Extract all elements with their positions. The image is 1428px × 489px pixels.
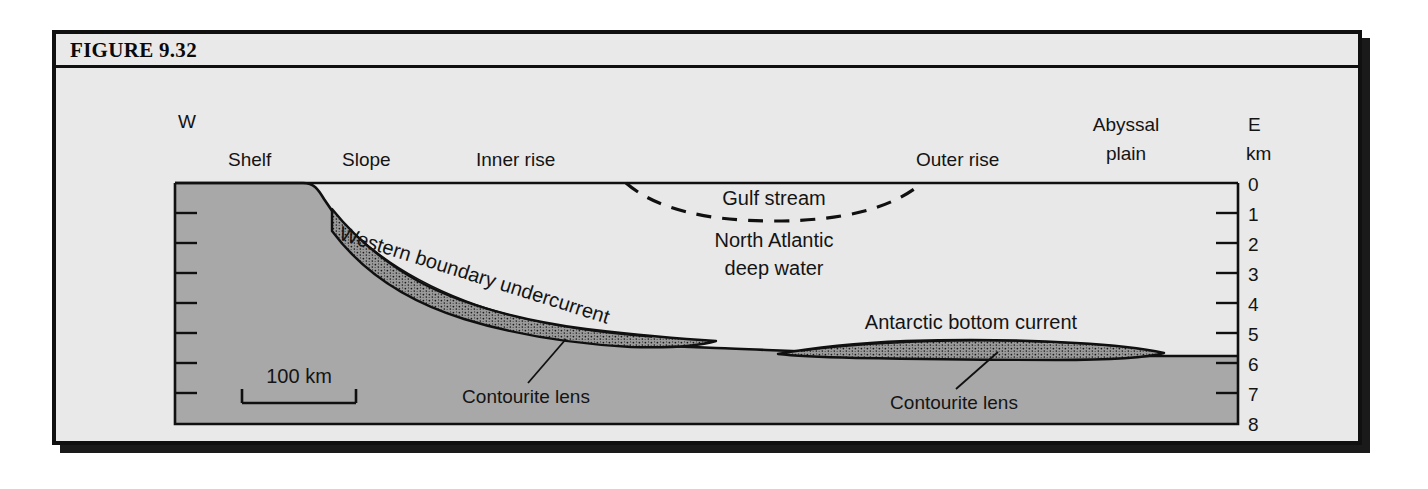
depth-tick-7: 7	[1248, 384, 1259, 405]
region-label-inner-rise: Inner rise	[476, 149, 555, 170]
depth-tick-3: 3	[1248, 264, 1259, 285]
compass-west-label: W	[178, 111, 196, 132]
depth-tick-1: 1	[1248, 204, 1259, 225]
region-label-abyssal-plain-line2: plain	[1106, 143, 1146, 164]
deposit-label-contourite-lens-east: Contourite lens	[890, 392, 1018, 413]
compass-east-label: E	[1248, 114, 1261, 135]
water-mass-label-gulf-stream: Gulf stream	[722, 187, 825, 209]
region-label-outer-rise: Outer rise	[916, 149, 999, 170]
figure-title: FIGURE 9.32	[70, 38, 197, 63]
figure-title-bar: FIGURE 9.32	[56, 34, 1358, 68]
current-label-antarctic-bottom-current: Antarctic bottom current	[865, 311, 1078, 333]
depth-tick-4: 4	[1248, 294, 1259, 315]
scale-bar-label: 100 km	[266, 365, 332, 387]
deposit-label-contourite-lens-west: Contourite lens	[462, 386, 590, 407]
figure-frame: FIGURE 9.32	[52, 30, 1362, 445]
depth-tick-2: 2	[1248, 234, 1259, 255]
depth-tick-8: 8	[1248, 414, 1259, 435]
depth-unit-label: km	[1246, 143, 1271, 164]
water-mass-label-nadw-line1: North Atlantic	[715, 229, 834, 251]
cross-section-diagram: 0 1 2 3 4 5 6 7 8 W E km Shelf Slope Inn…	[56, 71, 1358, 445]
water-mass-label-nadw-line2: deep water	[725, 257, 824, 279]
region-label-shelf: Shelf	[228, 149, 272, 170]
depth-tick-0: 0	[1248, 174, 1259, 195]
depth-tick-5: 5	[1248, 324, 1259, 345]
depth-tick-6: 6	[1248, 354, 1259, 375]
depth-axis-labels: 0 1 2 3 4 5 6 7 8	[1248, 174, 1259, 435]
figure-page: FIGURE 9.32	[0, 0, 1428, 489]
region-label-abyssal-plain-line1: Abyssal	[1093, 114, 1160, 135]
region-label-slope: Slope	[342, 149, 391, 170]
